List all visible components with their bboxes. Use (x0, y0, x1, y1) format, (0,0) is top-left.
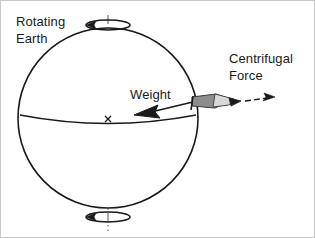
centrifugal-force-label-line2: Force (229, 68, 263, 83)
centrifugal-force-label-line1: Centrifugal (229, 51, 293, 66)
diagram-canvas: Rotating Earth Weight Centrifugal Force (1, 1, 315, 238)
centrifugal-force-arrow (245, 93, 275, 101)
rotating-earth-label-line2: Earth (16, 31, 48, 46)
weight-label: Weight (130, 87, 171, 102)
rotating-earth-label-line1: Rotating (16, 14, 65, 29)
earth-sphere (18, 28, 198, 208)
surface-mass-icon (191, 94, 241, 110)
rotating-earth-diagram: Rotating Earth Weight Centrifugal Force (0, 0, 315, 238)
